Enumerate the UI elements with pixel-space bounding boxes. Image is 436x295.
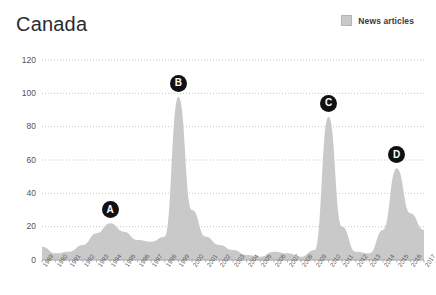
y-axis-tick-label: 120 bbox=[10, 56, 36, 65]
y-axis-tick-label: 40 bbox=[10, 189, 36, 198]
y-axis-tick-label: 0 bbox=[10, 256, 36, 265]
area-series-news-articles bbox=[42, 97, 424, 260]
chart-card: Canada News articles 0204060801001201989… bbox=[0, 0, 436, 295]
annotation-marker-c[interactable]: C bbox=[320, 95, 337, 112]
chart-svg bbox=[0, 0, 436, 295]
y-axis-tick-label: 80 bbox=[10, 122, 36, 131]
annotation-marker-b[interactable]: B bbox=[170, 75, 187, 92]
y-axis-tick-label: 20 bbox=[10, 222, 36, 231]
y-axis-tick-label: 60 bbox=[10, 156, 36, 165]
y-axis-tick-label: 100 bbox=[10, 89, 36, 98]
annotation-marker-a[interactable]: A bbox=[102, 201, 119, 218]
plot-area: 0204060801001201989199019911992199319941… bbox=[0, 0, 436, 295]
